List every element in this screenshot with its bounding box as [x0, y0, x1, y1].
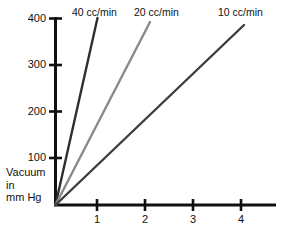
series-line-20-cc-min — [56, 22, 151, 205]
y-tick-label-100: 100 — [6, 152, 46, 163]
series-label-10-cc-min: 10 cc/min — [218, 6, 263, 18]
x-tick-label-2: 2 — [135, 214, 155, 225]
y-tick-label-200: 200 — [6, 106, 46, 117]
y-axis-title-line-2: in — [6, 179, 46, 192]
y-axis-title-line-1: Vacuum — [6, 166, 46, 179]
series-label-20-cc-min: 20 cc/min — [134, 6, 179, 18]
vacuum-flow-rate-chart: 400 300 200 100 1 2 3 4 Vacuum in mm Hg … — [0, 0, 285, 239]
x-tick-label-1: 1 — [87, 214, 107, 225]
series-line-10-cc-min — [56, 25, 245, 205]
x-tick-label-4: 4 — [231, 214, 251, 225]
y-axis-title-line-3: mm Hg — [6, 191, 46, 204]
x-tick-label-3: 3 — [183, 214, 203, 225]
series-label-40-cc-min: 40 cc/min — [72, 6, 117, 18]
y-axis-title: Vacuum in mm Hg — [6, 166, 46, 204]
y-tick-label-400: 400 — [6, 13, 46, 24]
y-tick-label-300: 300 — [6, 59, 46, 70]
